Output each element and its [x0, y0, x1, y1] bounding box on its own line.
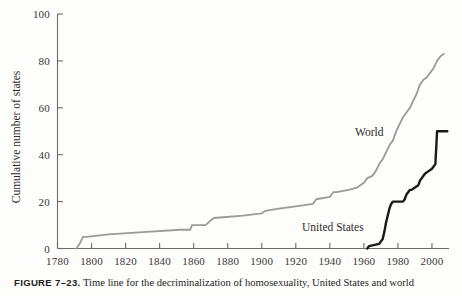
y-axis-tick-label: 0 — [18, 243, 50, 255]
series-label-world: World — [355, 126, 383, 138]
x-axis-tick-label: 1980 — [387, 255, 410, 267]
series-line-world — [76, 54, 444, 249]
x-axis-tick-label: 1780 — [46, 255, 69, 267]
x-axis-tick-label: 1820 — [114, 255, 137, 267]
series-line-united-states — [367, 131, 447, 248]
chart-axes — [58, 14, 450, 249]
figure-container: 020406080100 178018001820184018601880190… — [0, 0, 462, 296]
figure-caption-number: FIGURE 7–23. — [14, 277, 81, 288]
y-axis-ticks — [58, 14, 64, 249]
y-axis-tick-label: 20 — [18, 196, 50, 208]
x-axis-tick-label: 1800 — [80, 255, 103, 267]
y-axis-tick-label: 80 — [18, 55, 50, 67]
chart-series-group — [76, 54, 447, 249]
x-axis-tick-label: 1840 — [148, 255, 171, 267]
y-axis-tick-label: 60 — [18, 102, 50, 114]
y-axis-title: Cumulative number of states — [10, 37, 22, 237]
series-label-united-states: United States — [302, 221, 364, 233]
figure-caption: FIGURE 7–23. Time line for the decrimina… — [14, 276, 456, 289]
figure-caption-text: Time line for the decriminalization of h… — [83, 277, 414, 288]
x-axis-tick-label: 1920 — [284, 255, 307, 267]
x-axis-tick-label: 1860 — [182, 255, 205, 267]
x-axis-tick-label: 2000 — [421, 255, 444, 267]
x-axis-tick-label: 1880 — [216, 255, 239, 267]
chart-plot-area: 020406080100 178018001820184018601880190… — [0, 0, 462, 268]
y-axis-tick-label: 100 — [18, 8, 50, 20]
x-axis-tick-label: 1900 — [250, 255, 273, 267]
x-axis-tick-label: 1960 — [352, 255, 375, 267]
x-axis-tick-label: 1940 — [318, 255, 341, 267]
y-axis-tick-label: 40 — [18, 149, 50, 161]
chart-svg — [0, 0, 462, 268]
